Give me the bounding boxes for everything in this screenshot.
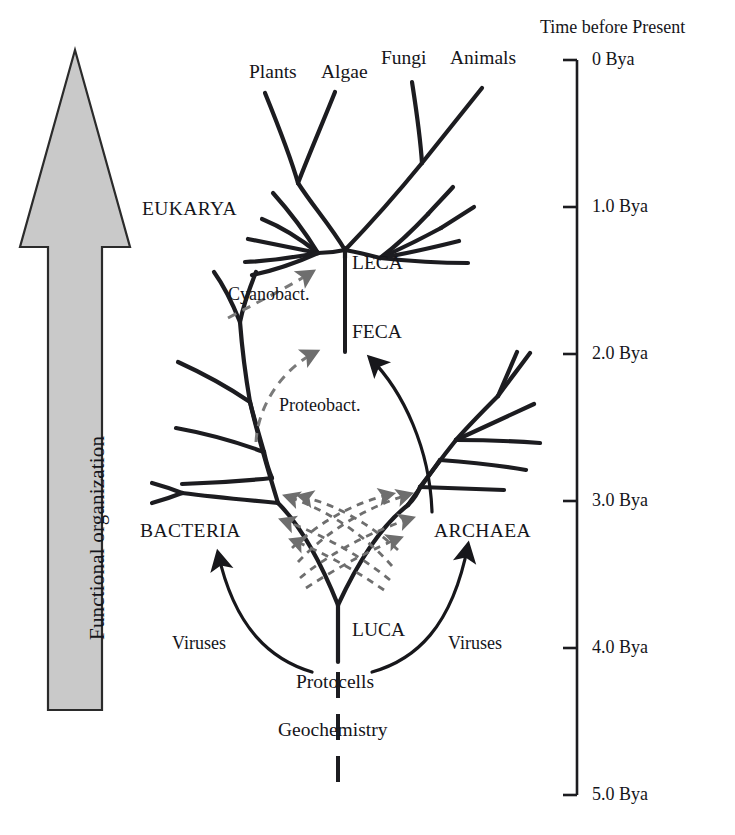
diagram-canvas: Time before Present 0 Bya 1.0 Bya 2.0 By… bbox=[0, 0, 735, 835]
axis-tick-1: 1.0 Bya bbox=[592, 197, 648, 215]
virus-label-right: Viruses bbox=[448, 634, 502, 652]
axis-tick-0: 0 Bya bbox=[592, 50, 635, 68]
tree-of-life-svg bbox=[0, 0, 735, 835]
endosymbiont-label-cyanobacteria: Cyanobact. bbox=[228, 285, 309, 303]
domain-label-archaea: ARCHAEA bbox=[434, 521, 531, 541]
bacteria-clade-branches bbox=[152, 272, 338, 605]
tip-label-algae: Algae bbox=[321, 62, 368, 82]
axis-tick-2: 2.0 Bya bbox=[592, 344, 648, 362]
archaea-clade-branches bbox=[338, 352, 540, 605]
functional-organization-arrow bbox=[20, 50, 130, 710]
axis-tick-3: 3.0 Bya bbox=[592, 491, 648, 509]
tip-label-plants: Plants bbox=[249, 62, 297, 82]
time-axis bbox=[563, 60, 577, 795]
node-label-feca: FECA bbox=[352, 322, 402, 342]
hgt-crossing-arrows bbox=[282, 494, 412, 590]
virus-arrow-bacteria bbox=[218, 553, 312, 672]
node-label-protocells: Protocells bbox=[296, 672, 374, 692]
node-label-leca: LECA bbox=[352, 253, 403, 273]
axis-title: Time before Present bbox=[540, 18, 685, 36]
node-label-luca: LUCA bbox=[352, 620, 405, 640]
axis-tick-4: 4.0 Bya bbox=[592, 638, 648, 656]
axis-tick-5: 5.0 Bya bbox=[592, 785, 648, 803]
domain-label-eukarya: EUKARYA bbox=[142, 199, 237, 219]
domain-label-bacteria: BACTERIA bbox=[140, 521, 241, 541]
functional-organization-label: Functional organization bbox=[85, 436, 110, 640]
tip-label-animals: Animals bbox=[450, 48, 516, 68]
endosymbiont-label-proteobacteria: Proteobact. bbox=[279, 396, 360, 414]
tip-label-fungi: Fungi bbox=[381, 48, 427, 68]
eukarya-clade-branches bbox=[245, 82, 482, 275]
node-label-geochemistry: Geochemistry bbox=[278, 720, 387, 740]
virus-label-left: Viruses bbox=[172, 634, 226, 652]
